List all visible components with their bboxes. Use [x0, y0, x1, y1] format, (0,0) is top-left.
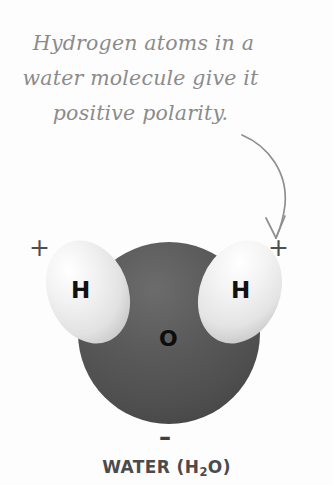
caption-main: WATER (H [102, 457, 199, 477]
atom-label-oxygen: O [159, 326, 178, 351]
charge-plus-right: + [268, 235, 289, 260]
caption-subscript: 2 [199, 465, 207, 479]
atom-label-hydrogen-right: H [231, 277, 251, 303]
figure-caption: WATER (H2O) [0, 457, 333, 477]
water-molecule-figure: Hydrogen atoms in a water molecule give … [0, 0, 333, 485]
atom-label-hydrogen-left: H [71, 277, 91, 303]
charge-plus-left: + [29, 235, 50, 260]
charge-minus-bottom: – [159, 425, 171, 449]
caption-tail: O) [208, 457, 231, 477]
